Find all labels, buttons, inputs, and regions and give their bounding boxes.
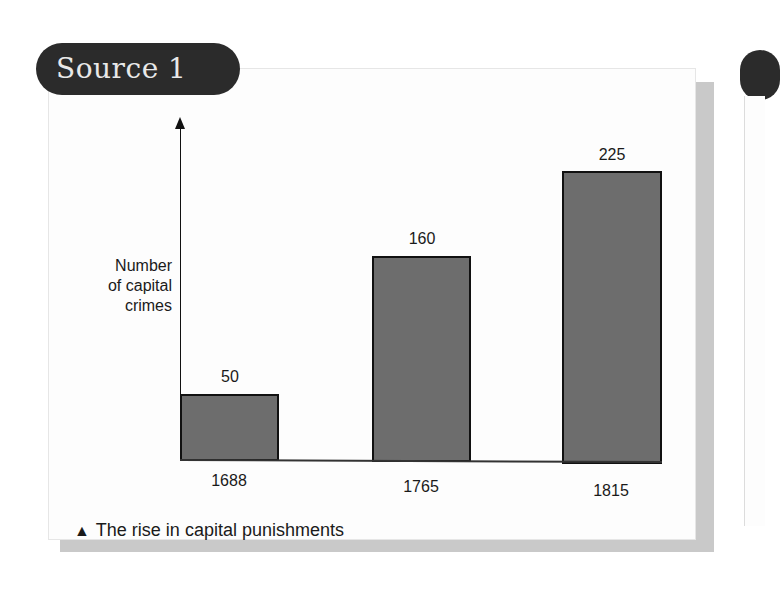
figure-caption: ▲The rise in capital punishments <box>74 520 344 541</box>
triangle-up-icon: ▲ <box>74 522 90 539</box>
bar-1688 <box>180 394 279 461</box>
next-source-badge-partial <box>740 50 780 100</box>
bar-value-label: 50 <box>190 368 270 386</box>
x-tick-label: 1688 <box>189 472 269 490</box>
bar-1815 <box>562 171 662 464</box>
bar-value-label: 225 <box>572 146 652 164</box>
source-badge: Source 1 <box>36 43 240 95</box>
caption-text: The rise in capital punishments <box>96 520 344 540</box>
next-source-card-partial <box>744 96 765 526</box>
x-tick-label: 1765 <box>381 478 461 496</box>
y-axis-label: Number of capital crimes <box>82 256 172 316</box>
bar-1765 <box>372 256 471 462</box>
x-tick-label: 1815 <box>571 482 651 500</box>
bar-value-label: 160 <box>382 230 462 248</box>
